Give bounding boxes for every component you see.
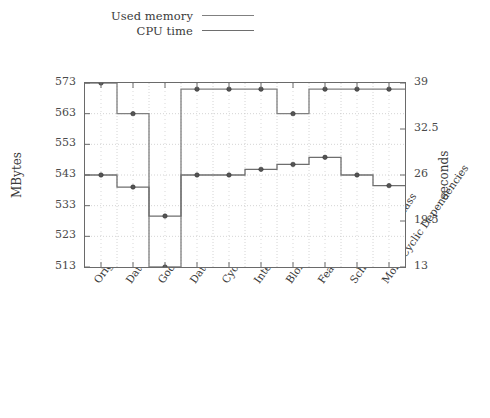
y-tick-label-left: 553 (32, 137, 76, 148)
y-tick-label-left: 573 (32, 76, 76, 87)
y-tick-label-left: 523 (32, 229, 76, 240)
data-point-marker (323, 155, 327, 159)
legend-label-used-memory: Used memory (111, 9, 193, 23)
y-tick-label-left: 563 (32, 107, 76, 118)
data-point-marker (163, 214, 167, 218)
data-point-marker (291, 162, 295, 166)
y-tick-label-right: 19.5 (414, 214, 460, 225)
data-point-marker (227, 173, 231, 177)
y-tick-label-right: 26 (414, 168, 460, 179)
plot-svg (85, 83, 405, 267)
data-point-marker (387, 183, 391, 187)
data-point-marker (131, 111, 135, 115)
y-tick-label-right: 32.5 (414, 122, 460, 133)
legend-swatch-used-memory (202, 15, 254, 16)
data-point-marker (99, 173, 103, 177)
y-tick-label-right: 39 (414, 76, 460, 87)
data-point-marker (259, 167, 263, 171)
y-tick-label-left: 543 (32, 168, 76, 179)
y-tick-label-right: 13 (414, 260, 460, 271)
chart-legend: Used memory CPU time (84, 8, 254, 38)
y-tick-label-left: 533 (32, 199, 76, 210)
legend-label-cpu-time: CPU time (137, 24, 194, 38)
plot-area (84, 82, 406, 268)
data-point-marker (195, 173, 199, 177)
legend-item-cpu-time: CPU time (84, 23, 254, 38)
legend-swatch-cpu-time (202, 30, 254, 31)
data-point-marker (291, 111, 295, 115)
data-point-marker (131, 185, 135, 189)
y-tick-label-left: 513 (32, 260, 76, 271)
legend-item-used-memory: Used memory (84, 8, 254, 23)
chart-canvas: Used memory CPU time MBytes seconds 5135… (0, 0, 490, 418)
y-axis-title-left: MBytes (10, 152, 24, 198)
data-point-marker (355, 173, 359, 177)
